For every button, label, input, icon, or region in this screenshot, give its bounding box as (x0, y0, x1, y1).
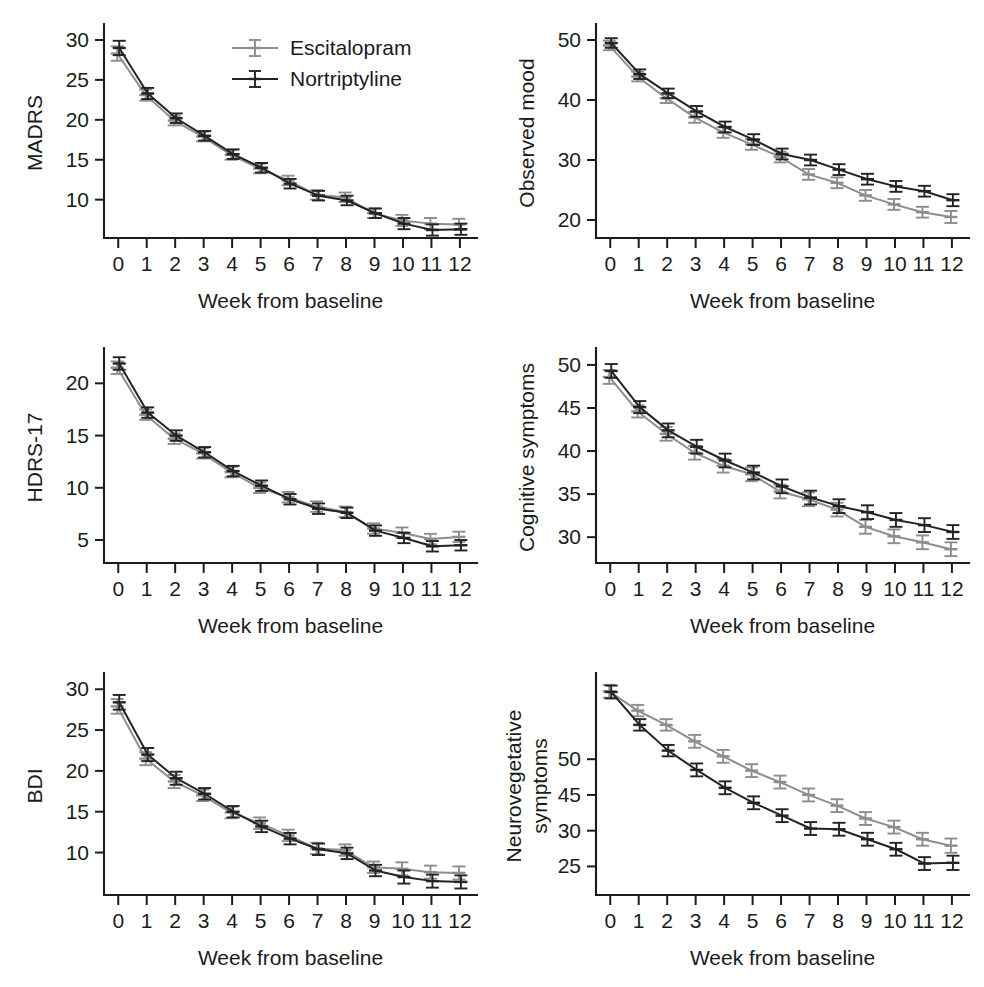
y-tick-label: 10 (66, 188, 89, 211)
error-bar (859, 190, 872, 201)
x-tick-label: 4 (226, 252, 238, 275)
y-tick-label: 10 (66, 841, 89, 864)
x-axis-title: Week from baseline (198, 946, 383, 969)
y-axis-ticks: 1015202530 (66, 677, 104, 863)
series-escitalopram (603, 41, 958, 223)
x-tick-label: 11 (913, 577, 935, 600)
y-axis-ticks: 5101520 (66, 371, 104, 551)
x-tick-label: 7 (312, 577, 324, 600)
error-bar (861, 505, 874, 519)
y-tick-label: 25 (66, 718, 89, 741)
y-tick-label: 25 (66, 68, 89, 91)
error-bar (916, 207, 929, 218)
y-axis-title: MADRS (23, 95, 46, 171)
x-tick-label: 7 (804, 577, 816, 600)
x-tick-label: 4 (718, 909, 730, 932)
y-axis-title: Cognitive symptoms (515, 363, 538, 552)
chart-svg-madrs: 10152025300123456789101112Week from base… (0, 0, 492, 330)
series-escitalopram (111, 361, 466, 544)
y-tick-label: 45 (558, 783, 581, 806)
x-tick-label: 9 (369, 577, 381, 600)
x-tick-label: 8 (340, 577, 352, 600)
error-bar (918, 857, 931, 870)
panel-hdrs-17: 51015200123456789101112Week from baselin… (0, 330, 492, 655)
error-bar (833, 823, 846, 836)
x-axis-title: Week from baseline (690, 289, 875, 312)
x-tick-label: 10 (391, 252, 414, 275)
x-tick-label: 0 (112, 252, 124, 275)
x-tick-label: 11 (913, 909, 935, 932)
series-line (611, 692, 953, 864)
x-axis-ticks: 0123456789101112 (112, 563, 471, 600)
y-tick-label: 15 (66, 148, 89, 171)
error-bar (395, 862, 408, 875)
error-bar (918, 518, 931, 532)
x-tick-label: 10 (883, 577, 906, 600)
error-bar (831, 177, 844, 188)
x-tick-label: 2 (661, 577, 673, 600)
error-bar (833, 499, 846, 513)
x-tick-label: 9 (861, 909, 873, 932)
y-tick-label: 30 (66, 28, 89, 51)
y-axis-title: symptoms (528, 738, 551, 834)
y-tick-label: 15 (66, 800, 89, 823)
error-bar (946, 525, 959, 539)
error-bar (944, 542, 957, 556)
error-bar (690, 763, 703, 776)
x-tick-label: 6 (775, 577, 787, 600)
y-tick-label: 50 (558, 28, 581, 51)
x-tick-label: 8 (832, 577, 844, 600)
error-bar (859, 812, 872, 825)
x-tick-label: 4 (718, 252, 730, 275)
series-escitalopram (111, 46, 466, 230)
series-line (119, 363, 461, 546)
x-tick-label: 8 (340, 909, 352, 932)
x-tick-label: 12 (448, 252, 471, 275)
x-tick-label: 11 (913, 252, 935, 275)
x-tick-label: 4 (718, 577, 730, 600)
x-tick-label: 7 (312, 252, 324, 275)
x-tick-label: 2 (661, 252, 673, 275)
legend-label: Nortriptyline (290, 67, 402, 90)
y-axis-ticks: 3035404550 (558, 353, 596, 548)
legend-item-escitalopram: Escitalopram (232, 36, 411, 59)
x-tick-label: 5 (747, 577, 759, 600)
y-tick-label: 45 (558, 396, 581, 419)
error-bar (861, 174, 874, 185)
x-tick-label: 9 (369, 252, 381, 275)
error-bar (889, 843, 902, 856)
error-bar (804, 155, 817, 166)
series-line (609, 377, 951, 549)
error-bar (861, 833, 874, 846)
error-bar (887, 199, 900, 210)
error-bar (719, 781, 732, 794)
series-escitalopram (603, 685, 958, 853)
x-tick-label: 2 (169, 577, 181, 600)
legend-label: Escitalopram (290, 36, 411, 59)
x-tick-label: 6 (775, 252, 787, 275)
x-tick-label: 1 (141, 577, 153, 600)
x-tick-label: 2 (169, 909, 181, 932)
multi-panel-figure: 10152025300123456789101112Week from base… (0, 0, 984, 987)
y-tick-label: 5 (77, 528, 89, 551)
error-bar (887, 821, 900, 834)
y-tick-label: 40 (558, 88, 581, 111)
x-tick-label: 8 (832, 909, 844, 932)
x-tick-label: 7 (312, 909, 324, 932)
y-tick-label: 30 (66, 677, 89, 700)
error-bar (688, 735, 701, 748)
y-tick-label: 30 (558, 525, 581, 548)
error-bar (918, 186, 931, 197)
error-bar (944, 839, 957, 853)
chart-svg-bdi: 10152025300123456789101112Week from base… (0, 655, 492, 987)
x-tick-label: 3 (690, 577, 702, 600)
error-bar (859, 520, 872, 534)
y-tick-label: 25 (558, 854, 581, 877)
x-tick-label: 5 (747, 252, 759, 275)
x-tick-label: 6 (775, 909, 787, 932)
x-tick-label: 10 (883, 252, 906, 275)
series-line (119, 702, 461, 882)
x-tick-label: 1 (141, 909, 153, 932)
x-tick-label: 2 (169, 252, 181, 275)
legend: EscitalopramNortriptyline (232, 36, 411, 90)
